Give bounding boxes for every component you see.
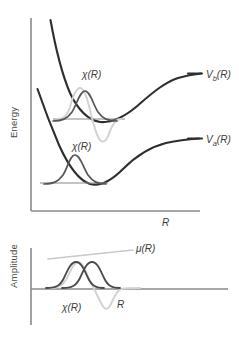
vb-label-arg: (R)	[217, 69, 231, 80]
upper-well-ghost-wavefunction	[57, 88, 121, 142]
dipole-moment-line	[48, 250, 133, 259]
upper-wavefunction-label: χ(R)	[81, 69, 101, 80]
dipole-moment-label: μ(R)	[135, 243, 155, 254]
lower-wavefunction-label: χ(R)	[71, 141, 91, 152]
lower-panel: Amplitude μ(R) χ(R) R	[8, 243, 228, 325]
lower-panel-wavefunction-label: χ(R)	[61, 302, 81, 313]
lower-panel-ylabel: Amplitude	[8, 244, 19, 288]
upper-panel-ylabel: Energy	[8, 107, 19, 138]
lower-potential-curve-va	[38, 89, 200, 185]
upper-potential-curve-vb	[51, 20, 202, 122]
va-label: Va(R)	[206, 134, 231, 148]
upper-panel-xlabel: R	[162, 217, 169, 228]
upper-panel: Energy R χ(R) χ(R) Vb(R)	[8, 18, 231, 228]
lower-well-wavefunction	[44, 155, 106, 184]
scientific-figure: Energy R χ(R) χ(R) Vb(R)	[0, 0, 239, 338]
lower-panel-xlabel: R	[117, 299, 124, 310]
vb-label: Vb(R)	[206, 69, 231, 83]
va-label-arg: (R)	[217, 134, 231, 145]
figure-svg: Energy R χ(R) χ(R) Vb(R)	[0, 0, 239, 338]
